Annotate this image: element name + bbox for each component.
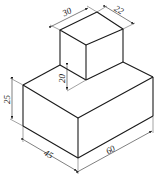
dimension-base-depth: 45 bbox=[23, 126, 78, 174]
dimension-label-45: 45 bbox=[42, 148, 55, 161]
dimension-label-22: 22 bbox=[113, 3, 126, 17]
dimension-top-length: 30 bbox=[50, 5, 97, 30]
top-block bbox=[60, 12, 123, 80]
dimension-base-height: 25 bbox=[2, 78, 23, 126]
dimension-label-60: 60 bbox=[104, 143, 117, 156]
dimension-label-20: 20 bbox=[57, 74, 67, 84]
isometric-drawing: 30 22 20 25 45 60 bbox=[0, 0, 158, 189]
base-block bbox=[23, 62, 153, 158]
dimension-label-30: 30 bbox=[60, 5, 74, 19]
dimension-base-length: 60 bbox=[79, 116, 153, 171]
dimension-top-height: 20 bbox=[57, 66, 86, 91]
dimension-label-25: 25 bbox=[2, 95, 12, 105]
